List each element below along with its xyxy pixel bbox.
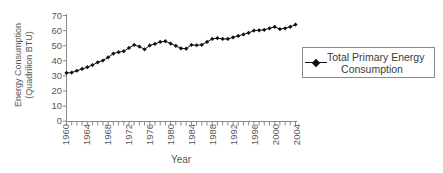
legend-label-line1: Total Primary Energy	[327, 51, 424, 63]
y-tick-marks	[63, 16, 66, 122]
chart-screenshot: Energy Consumption (Quadrilion BTU) 70 6…	[0, 0, 443, 173]
plot-area	[0, 0, 443, 173]
legend-marker-icon	[305, 57, 327, 69]
legend-label-line2: Consumption	[327, 63, 431, 75]
x-tick-marks	[67, 122, 296, 126]
chart-legend: Total Primary Energy Consumption	[302, 47, 435, 78]
legend-entry-label: Total Primary Energy Consumption	[327, 51, 431, 75]
